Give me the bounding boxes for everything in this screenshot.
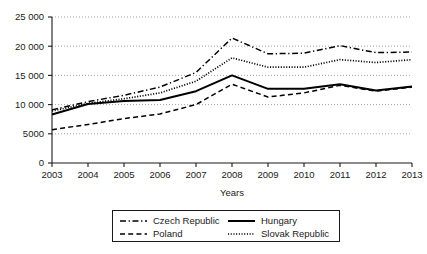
y-axis-tick-label: 25 000 <box>15 11 44 22</box>
x-axis-tick-label: 2003 <box>41 169 62 180</box>
y-axis-tick-label: 0 <box>39 157 44 168</box>
x-axis-tick-label: 2006 <box>149 169 170 180</box>
chart-svg: 0500010 00015 00020 00025 000 2003200420… <box>0 0 427 254</box>
legend-label: Hungary <box>261 215 297 226</box>
x-axis-tick-label: 2007 <box>185 169 206 180</box>
legend-label: Slovak Republic <box>261 228 329 239</box>
y-axis-tick-label: 5000 <box>23 128 44 139</box>
x-axis-title: Years <box>220 187 244 198</box>
legend: Czech RepublicHungaryPolandSlovak Republ… <box>113 211 340 242</box>
y-axis-tick-label: 15 000 <box>15 70 44 81</box>
x-axis-tick-label: 2004 <box>77 169 98 180</box>
x-axis-tick-label: 2005 <box>113 169 134 180</box>
y-axis-tick-label: 10 000 <box>15 99 44 110</box>
x-axis-tick-label: 2010 <box>293 169 314 180</box>
x-axis-tick-label: 2012 <box>365 169 386 180</box>
legend-label: Czech Republic <box>153 215 220 226</box>
x-axis-tick-label: 2009 <box>257 169 278 180</box>
x-axis-tick-label: 2008 <box>221 169 242 180</box>
line-chart: 0500010 00015 00020 00025 000 2003200420… <box>0 0 427 254</box>
y-axis-tick-label: 20 000 <box>15 41 44 52</box>
legend-label: Poland <box>153 228 183 239</box>
x-axis-tick-label: 2013 <box>401 169 422 180</box>
x-axis-tick-label: 2011 <box>330 169 350 180</box>
